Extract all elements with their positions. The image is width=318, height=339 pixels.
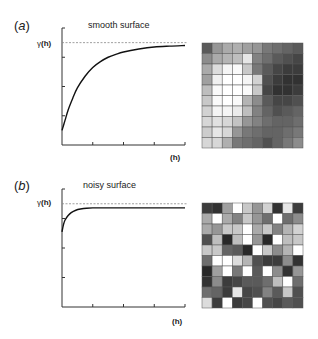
- grid-cell-a: [212, 106, 222, 117]
- grid-cell-b: [253, 203, 263, 214]
- grid-cell-b: [222, 245, 232, 256]
- grid-cell-a: [283, 43, 293, 54]
- grid-cell-a: [293, 64, 303, 75]
- grid-cell-b: [263, 203, 273, 214]
- grid-cell-a: [212, 127, 222, 138]
- grid-cell-b: [232, 266, 242, 277]
- grid-cell-b: [253, 214, 263, 225]
- grid-cell-a: [212, 54, 222, 65]
- grid-cell-b: [242, 298, 252, 309]
- x-axis-label-b: (h): [172, 317, 183, 326]
- grid-cell-b: [202, 235, 212, 246]
- grid-cell-b: [232, 245, 242, 256]
- grid-cell-b: [273, 245, 283, 256]
- grid-cell-a: [273, 106, 283, 117]
- grid-cell-b: [263, 224, 273, 235]
- grid-cell-b: [263, 266, 273, 277]
- grid-cell-a: [242, 85, 252, 96]
- grid-cell-a: [283, 75, 293, 86]
- grid-cell-b: [253, 287, 263, 298]
- grid-cell-b: [263, 287, 273, 298]
- grid-cell-a: [273, 64, 283, 75]
- grid-cell-a: [293, 106, 303, 117]
- panel-letter-a: a: [18, 18, 25, 33]
- chart-title-a: smooth surface: [88, 20, 150, 30]
- grid-cell-b: [293, 256, 303, 267]
- grid-cell-a: [273, 43, 283, 54]
- grid-cell-b: [283, 214, 293, 225]
- grid-cell-a: [212, 138, 222, 149]
- grid-cell-a: [263, 75, 273, 86]
- grid-cell-b: [253, 235, 263, 246]
- grid-cell-a: [283, 117, 293, 128]
- grid-cell-b: [283, 266, 293, 277]
- grid-cell-b: [222, 256, 232, 267]
- grid-cell-a: [283, 64, 293, 75]
- grid-cell-b: [283, 287, 293, 298]
- grid-cell-b: [202, 245, 212, 256]
- grid-cell-a: [242, 127, 252, 138]
- grid-cell-a: [283, 85, 293, 96]
- grid-cell-a: [273, 127, 283, 138]
- grid-cell-a: [202, 127, 212, 138]
- grid-cell-a: [202, 117, 212, 128]
- grid-cell-b: [293, 235, 303, 246]
- grid-cell-a: [222, 64, 232, 75]
- grid-cell-a: [253, 43, 263, 54]
- grid-cell-b: [202, 224, 212, 235]
- grid-cell-b: [273, 203, 283, 214]
- grid-cell-b: [212, 256, 222, 267]
- grid-cell-b: [253, 256, 263, 267]
- grid-cell-a: [232, 75, 242, 86]
- grid-cell-a: [232, 106, 242, 117]
- grid-cell-a: [242, 106, 252, 117]
- grid-cell-b: [293, 266, 303, 277]
- grid-cell-a: [293, 96, 303, 107]
- grid-cell-a: [293, 117, 303, 128]
- grid-cell-b: [273, 266, 283, 277]
- x-axis-label-a: (h): [170, 153, 181, 162]
- grid-cell-a: [293, 54, 303, 65]
- grid-cell-b: [283, 277, 293, 288]
- surface-grid-a: [202, 43, 303, 148]
- grid-cell-a: [263, 85, 273, 96]
- grid-cell-a: [273, 54, 283, 65]
- grid-cell-b: [222, 203, 232, 214]
- grid-cell-a: [212, 117, 222, 128]
- grid-cell-a: [263, 127, 273, 138]
- grid-cell-a: [253, 138, 263, 149]
- grid-cell-b: [242, 235, 252, 246]
- grid-cell-a: [202, 54, 212, 65]
- chart-title-b: noisy surface: [83, 180, 136, 190]
- grid-cell-a: [242, 75, 252, 86]
- grid-cell-b: [202, 277, 212, 288]
- grid-cell-a: [283, 127, 293, 138]
- grid-cell-b: [212, 245, 222, 256]
- grid-cell-b: [222, 298, 232, 309]
- grid-cell-b: [232, 277, 242, 288]
- grid-cell-a: [232, 138, 242, 149]
- grid-cell-b: [263, 277, 273, 288]
- grid-cell-b: [253, 266, 263, 277]
- grid-cell-a: [222, 96, 232, 107]
- grid-cell-a: [202, 75, 212, 86]
- variogram-curve-b: [62, 208, 185, 232]
- grid-cell-b: [283, 235, 293, 246]
- grid-cell-b: [283, 203, 293, 214]
- grid-cell-a: [202, 138, 212, 149]
- grid-cell-b: [283, 245, 293, 256]
- grid-cell-b: [293, 245, 303, 256]
- grid-cell-b: [263, 256, 273, 267]
- grid-cell-b: [232, 287, 242, 298]
- grid-cell-a: [263, 54, 273, 65]
- grid-cell-b: [242, 266, 252, 277]
- grid-cell-b: [283, 298, 293, 309]
- grid-cell-b: [222, 266, 232, 277]
- grid-cell-b: [242, 287, 252, 298]
- grid-cell-a: [202, 43, 212, 54]
- grid-cell-b: [212, 214, 222, 225]
- grid-cell-b: [222, 214, 232, 225]
- grid-cell-b: [232, 256, 242, 267]
- grid-cell-b: [293, 287, 303, 298]
- grid-cell-a: [242, 117, 252, 128]
